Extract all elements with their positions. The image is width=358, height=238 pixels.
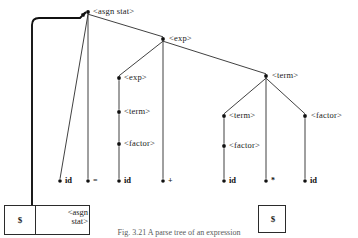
terminal-label-id2: id [124,176,131,185]
tree-node-dot [58,179,62,183]
stack-cell-text: $ [18,215,23,225]
tree-edge [88,14,163,37]
tree-node-dot [161,37,165,41]
tree-edge [266,78,305,114]
nonterminal-label-term1: <term> [124,107,150,116]
tree-edge [163,41,266,74]
tree-edge [119,41,163,76]
terminal-label-id1: id [65,176,72,185]
stack-cell-text: stat> [39,217,88,226]
tree-node-dot [117,110,121,114]
tree-node-dot [117,76,121,80]
stack-to-root-arrow [32,12,86,221]
figure-caption: Fig. 3.21 A parse tree of an expression [0,228,358,237]
nonterminal-label-root: <asgn stat> [93,7,134,16]
tree-node-dot [86,179,90,183]
tree-node-dot [86,10,90,14]
terminal-label-eq: = [93,176,98,185]
tree-node-dot [117,142,121,146]
nonterminal-label-termR: <term> [272,71,298,80]
terminal-label-id3: id [229,176,236,185]
nonterminal-label-term2: <term> [229,111,255,120]
terminal-label-plus: + [168,176,173,185]
stack-pointer-arrow [32,12,86,223]
nonterminal-label-exp1: <exp> [169,34,192,43]
nonterminal-label-exp2: <exp> [124,73,147,82]
tree-node-dot [117,179,121,183]
nonterminal-label-factor3: <factor> [311,111,342,120]
tree-node-dot [222,144,226,148]
tree-node-dot [222,114,226,118]
stack-cell-text: $ [271,214,276,224]
tree-node-dot [264,74,268,78]
parse-tree-figure: <asgn stat><exp><exp><term><factor><term… [0,0,358,238]
terminal-label-id4: id [310,176,317,185]
tree-node-dot [264,179,268,183]
nonterminal-label-factor1: <factor> [124,139,155,148]
tree-node-dot [222,179,226,183]
tree-node-dot [303,114,307,118]
tree-edge [60,14,88,179]
tree-edge [224,78,266,114]
terminal-label-star: * [271,176,275,185]
tree-node-dot [303,179,307,183]
nonterminal-label-factor2: <factor> [229,141,260,150]
tree-node-dot [161,179,165,183]
